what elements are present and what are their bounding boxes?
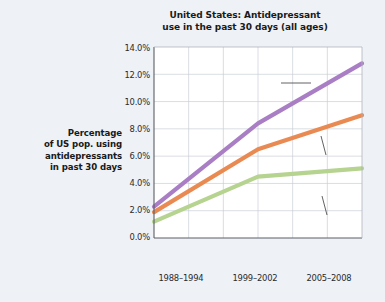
- annotation-leader-lines: [281, 83, 327, 215]
- y-axis-title-line-3: antidepressants: [12, 151, 122, 162]
- grid-lines: [154, 47, 362, 238]
- x-tick-label-2: 1999–2002: [217, 273, 293, 283]
- series-label-male: Male: [318, 218, 338, 228]
- chart-title: United States: Antidepressant use in the…: [120, 10, 370, 33]
- x-tick-label-1: 1988–1994: [143, 273, 219, 283]
- chart-title-line-1: United States: Antidepressant: [120, 10, 370, 22]
- y-tick-label-4: 4.0%: [112, 178, 150, 188]
- y-tick-label-12: 12.0%: [112, 70, 150, 80]
- x-tick-label-3: 2005–2008: [291, 273, 367, 283]
- y-axis-title-line-2: of US pop. using: [12, 139, 122, 150]
- y-tick-label-2: 2.0%: [112, 205, 150, 215]
- plot-background: [154, 47, 362, 238]
- leader-line-male: [322, 196, 327, 215]
- chart-title-line-2: use in the past 30 days (all ages): [120, 22, 370, 34]
- y-axis-title: Percentage of US pop. using antidepressa…: [12, 128, 122, 174]
- y-tick-label-0: 0.0%: [112, 232, 150, 242]
- series-label-total: Total: [317, 158, 337, 168]
- y-tick-label-8: 8.0%: [112, 124, 150, 134]
- y-tick-label-6: 6.0%: [112, 151, 150, 161]
- series-label-female: Female: [248, 79, 278, 89]
- data-line-male: [154, 168, 362, 221]
- chart-container: United States: Antidepressant use in the…: [0, 0, 385, 302]
- y-tick-label-10: 10.0%: [112, 97, 150, 107]
- y-tick-label-14: 14.0%: [112, 43, 150, 53]
- y-axis-title-line-1: Percentage: [12, 128, 122, 139]
- y-axis-title-line-4: in past 30 days: [12, 162, 122, 173]
- leader-line-total: [321, 136, 326, 155]
